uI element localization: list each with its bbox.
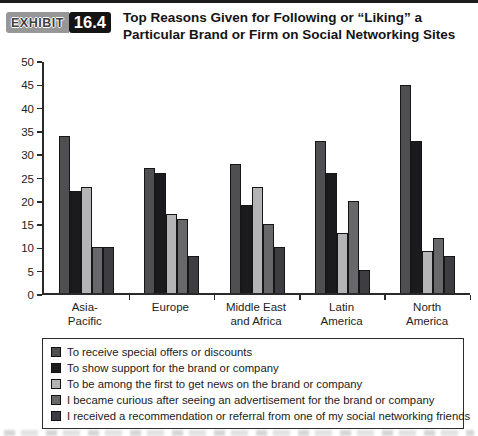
exhibit-badge: EXHIBIT 16.4	[6, 12, 111, 33]
bar	[81, 187, 92, 293]
bar	[274, 247, 285, 293]
legend-swatch-curious-after-ad	[51, 395, 61, 405]
bar	[411, 141, 422, 293]
legend-label: I received a recommendation or referral …	[67, 410, 470, 422]
legend-swatch-show-support	[51, 363, 61, 373]
bar	[241, 205, 252, 293]
y-tick-label: 0	[28, 289, 34, 301]
y-tick-label: 50	[21, 56, 34, 68]
y-tick-label: 35	[21, 126, 34, 138]
exhibit-page: EXHIBIT 16.4 Top Reasons Given for Follo…	[0, 0, 478, 436]
bar	[70, 191, 81, 293]
bar-group-middle-east-and-africa	[214, 62, 299, 293]
bar	[444, 256, 455, 293]
exhibit-badge-number: 16.4	[69, 12, 111, 33]
legend-label: I became curious after seeing an adverti…	[67, 394, 434, 406]
y-tick-40: 40	[21, 103, 42, 115]
y-tick-5: 5	[28, 266, 42, 278]
legend-label: To be among the first to get news on the…	[67, 378, 362, 390]
bar	[348, 201, 359, 293]
legend-label: To show support for the brand or company	[67, 362, 279, 374]
legend-box: To receive special offers or discounts T…	[42, 338, 464, 429]
x-axis-category-label-latin-america: LatinAmerica	[299, 301, 385, 328]
y-tick-30: 30	[21, 149, 42, 161]
bar	[92, 247, 103, 293]
y-tick-label: 30	[21, 149, 34, 161]
x-axis-category-label-middle-east-and-africa: Middle Eastand Africa	[213, 301, 299, 328]
bar	[422, 251, 433, 293]
legend-row: To receive special offers or discounts	[51, 344, 455, 360]
y-tick-0: 0	[28, 289, 42, 301]
top-rule-divider	[0, 0, 478, 3]
bar	[166, 214, 177, 293]
bar	[59, 136, 70, 293]
bar	[144, 168, 155, 293]
y-tick-10: 10	[21, 242, 42, 254]
y-tick-35: 35	[21, 126, 42, 138]
exhibit-badge-label: EXHIBIT	[6, 12, 69, 33]
bar	[315, 141, 326, 293]
legend-swatch-recommendation	[51, 411, 61, 421]
bar	[230, 164, 241, 293]
plot-area	[42, 62, 470, 295]
y-tick-label: 10	[21, 242, 34, 254]
y-tick-label: 20	[21, 196, 34, 208]
bar-group-asia-pacific	[44, 62, 129, 293]
chart-title-line2: Particular Brand or Firm on Social Netwo…	[123, 27, 455, 44]
exhibit-header: EXHIBIT 16.4 Top Reasons Given for Follo…	[6, 10, 474, 43]
legend-row: To show support for the brand or company	[51, 360, 455, 376]
bar	[177, 219, 188, 293]
x-axis-labels: Asia-PacificEuropeMiddle Eastand AfricaL…	[42, 301, 470, 328]
x-axis-category-label-north-america: NorthAmerica	[384, 301, 470, 328]
chart-title: Top Reasons Given for Following or “Liki…	[123, 10, 455, 43]
y-tick-15: 15	[21, 219, 42, 231]
bar	[337, 233, 348, 293]
bar	[103, 247, 114, 293]
y-tick-label: 45	[21, 79, 34, 91]
bar	[188, 256, 199, 293]
y-axis: 05101520253035404550	[8, 62, 42, 295]
legend-row: I became curious after seeing an adverti…	[51, 392, 455, 408]
y-tick-label: 5	[28, 266, 34, 278]
bar-group-north-america	[385, 62, 470, 293]
legend-label: To receive special offers or discounts	[67, 346, 252, 358]
y-tick-label: 40	[21, 103, 34, 115]
bar	[359, 270, 370, 293]
bar-chart: 05101520253035404550	[8, 62, 470, 295]
bar	[263, 224, 274, 293]
legend-swatch-special-offers	[51, 347, 61, 357]
bar	[155, 173, 166, 293]
cropped-source-text	[4, 430, 474, 436]
y-tick-45: 45	[21, 79, 42, 91]
x-axis-category-label-asia-pacific: Asia-Pacific	[42, 301, 128, 328]
y-tick-label: 15	[21, 219, 34, 231]
y-tick-25: 25	[21, 173, 42, 185]
bar	[252, 187, 263, 293]
bar-group-europe	[129, 62, 214, 293]
legend-row: To be among the first to get news on the…	[51, 376, 455, 392]
chart-title-line1: Top Reasons Given for Following or “Liki…	[123, 10, 455, 27]
bar-group-latin-america	[300, 62, 385, 293]
bar	[400, 85, 411, 293]
y-tick-50: 50	[21, 56, 42, 68]
x-axis-category-label-europe: Europe	[128, 301, 214, 328]
y-tick-20: 20	[21, 196, 42, 208]
y-tick-label: 25	[21, 173, 34, 185]
bar	[326, 173, 337, 293]
legend-swatch-first-to-get-news	[51, 379, 61, 389]
legend-row: I received a recommendation or referral …	[51, 408, 455, 424]
bar	[433, 238, 444, 293]
